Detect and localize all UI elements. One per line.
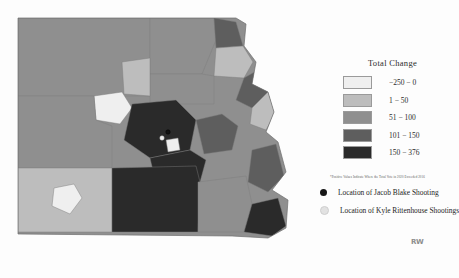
- map-region: [150, 74, 214, 104]
- legend-range-label: 101 − 150: [389, 131, 419, 140]
- legend-range-label: −250 − 0: [389, 78, 416, 87]
- legend-swatch: [343, 76, 372, 89]
- legend-swatch: [343, 111, 372, 124]
- map-page: Total Change −250 − 01 − 5051 − 100101 −…: [0, 0, 459, 278]
- marker-legend-row: Location of Jacob Blake Shooting: [318, 188, 458, 197]
- map-region: [112, 166, 200, 232]
- legend-row: 101 − 150: [330, 129, 455, 142]
- legend-row: −250 − 0: [330, 76, 455, 89]
- legend-row: 1 − 50: [330, 94, 455, 107]
- legend-rows: −250 − 01 − 5051 − 100101 − 150150 − 376: [330, 76, 455, 159]
- legend-swatch: [343, 129, 372, 142]
- marker-legend-label: Location of Kyle Rittenhouse Shootings: [340, 206, 459, 215]
- legend-footnote: *Positive Values Indicate Where the Tota…: [330, 175, 458, 179]
- marker-legend-row: Location of Kyle Rittenhouse Shootings: [318, 206, 458, 215]
- map-region: [166, 138, 180, 152]
- jacob-blake-shooting-marker: [166, 130, 170, 134]
- map-region: [122, 58, 150, 96]
- filled-circle-icon: [320, 189, 327, 196]
- legend-swatch: [343, 146, 372, 159]
- legend: Total Change −250 − 01 − 5051 − 100101 −…: [330, 58, 455, 159]
- choropleth-map: [0, 0, 320, 278]
- kyle-rittenhouse-shootings-marker: [160, 136, 164, 140]
- legend-swatch: [343, 94, 372, 107]
- hollow-circle-icon: [320, 206, 329, 215]
- marker-legend: Location of Jacob Blake ShootingLocation…: [318, 188, 458, 224]
- map-region: [198, 176, 252, 232]
- legend-range-label: 150 − 376: [389, 148, 419, 157]
- legend-range-label: 1 − 50: [389, 96, 408, 105]
- legend-range-label: 51 − 100: [389, 113, 416, 122]
- map-svg: [0, 0, 320, 278]
- legend-title: Total Change: [330, 58, 455, 68]
- marker-legend-label: Location of Jacob Blake Shooting: [338, 188, 439, 197]
- watermark: RW: [411, 238, 423, 246]
- legend-row: 51 − 100: [330, 111, 455, 124]
- legend-row: 150 − 376: [330, 146, 455, 159]
